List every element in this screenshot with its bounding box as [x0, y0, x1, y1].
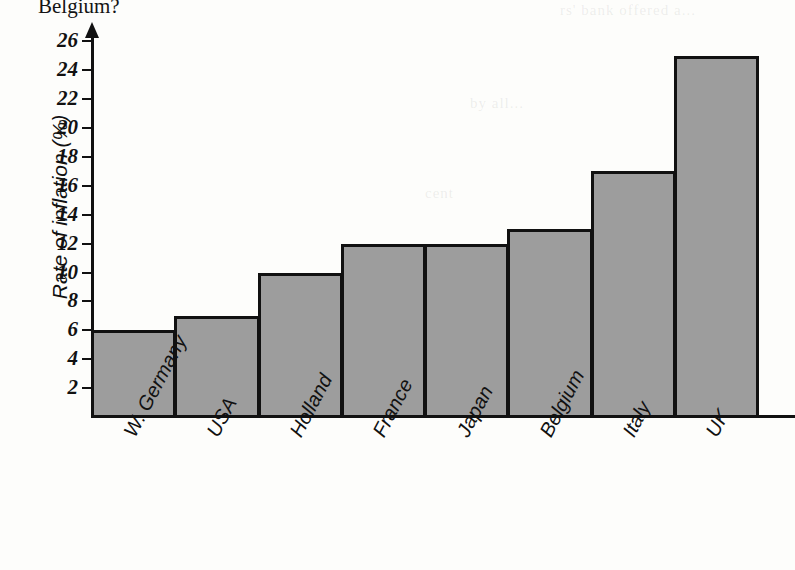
y-tick-label: 8: [18, 290, 78, 311]
chart-page: Belgium? rs' bank offered a...by all...c…: [0, 0, 795, 570]
y-tick-mark: [82, 272, 94, 274]
bar: [591, 171, 676, 418]
y-tick-mark: [82, 40, 94, 42]
bar: [258, 273, 343, 419]
bar-chart: Rate of inflation (%) 262422201816141210…: [0, 0, 795, 570]
y-tick-label: 2: [18, 377, 78, 398]
y-tick-mark: [82, 156, 94, 158]
y-tick-mark: [82, 300, 94, 302]
y-tick-mark: [82, 69, 94, 71]
y-tick-label: 4: [18, 348, 78, 369]
y-tick-label: 16: [18, 175, 78, 196]
y-tick-label: 12: [18, 233, 78, 254]
y-tick-label: 10: [18, 262, 78, 283]
y-tick-mark: [82, 243, 94, 245]
bar: [674, 56, 759, 418]
y-tick-mark: [82, 214, 94, 216]
y-tick-label: 18: [18, 146, 78, 167]
y-tick-label: 24: [18, 59, 78, 80]
y-tick-label: 20: [18, 117, 78, 138]
y-axis-arrow-icon: [85, 22, 99, 38]
y-tick-label: 14: [18, 204, 78, 225]
y-tick-label: 22: [18, 88, 78, 109]
y-tick-mark: [82, 127, 94, 129]
y-tick-mark: [82, 185, 94, 187]
y-tick-label: 6: [18, 319, 78, 340]
y-tick-label: 26: [18, 30, 78, 51]
y-tick-mark: [82, 98, 94, 100]
